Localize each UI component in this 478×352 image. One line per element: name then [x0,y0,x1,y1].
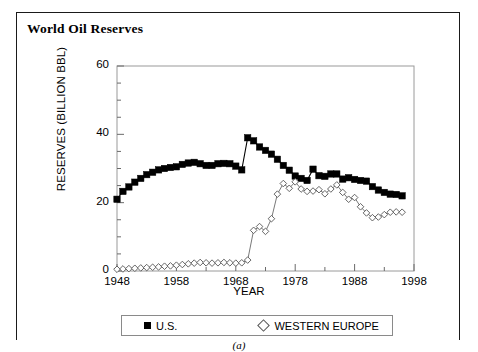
x-tick-label: 1978 [268,275,322,287]
legend-label-western-europe: WESTERN EUROPE [274,320,379,332]
legend-item-western-europe: WESTERN EUROPE [259,320,379,332]
y-tick-label: 40 [69,126,109,138]
x-tick-label: 1968 [209,275,263,287]
chart-series-western-europe [114,179,406,273]
x-tick-label: 1998 [387,275,441,287]
figure-sub-caption: (a) [17,339,461,351]
y-tick-label: 60 [69,58,109,70]
legend-item-us: U.S. [144,320,177,332]
figure-frame: World Oil Reserves RESERVES (BILLION BBL… [16,12,460,340]
y-axis-title: RESERVES (BILLION BBL) [55,19,67,219]
chart-series-us [114,135,406,203]
y-tick-label: 20 [69,195,109,207]
filled-square-marker-icon [144,322,151,329]
x-tick-label: 1948 [90,275,144,287]
chart-legend: U.S. WESTERN EUROPE [121,315,393,336]
y-tick-label: 0 [69,263,109,275]
open-diamond-marker-icon [258,319,271,332]
legend-label-us: U.S. [156,320,177,332]
x-tick-label: 1988 [328,275,382,287]
chart-plot-area: RESERVES (BILLION BBL) YEAR 020406019481… [17,13,461,313]
x-tick-label: 1958 [149,275,203,287]
